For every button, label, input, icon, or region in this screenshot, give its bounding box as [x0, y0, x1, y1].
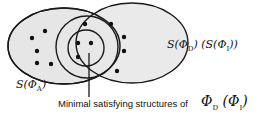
caption-math: ΦD (ΦI) — [201, 93, 248, 112]
caption-text: Minimal satisfying structures of — [58, 98, 188, 109]
set-a-label: S(ΦA) — [16, 78, 46, 93]
set-d-label: S(ΦD) (S(ΦI)) — [167, 38, 238, 53]
